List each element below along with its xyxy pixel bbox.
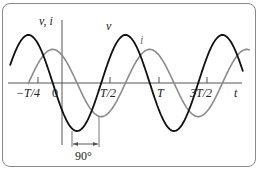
tick-label-minus-quarter: −T/4	[16, 86, 40, 100]
vi-phase-plot: v, i v i −T/4 0 T/2 T 3T/2 t 90°	[0, 0, 261, 172]
tick-label-T: T	[157, 86, 165, 100]
tick-label-half: T/2	[100, 86, 116, 100]
arrow-right-icon	[93, 142, 98, 146]
tick-label-zero: 0	[52, 86, 58, 100]
v-curve-label: v	[106, 19, 112, 33]
x-axis-label: t	[234, 86, 238, 100]
y-axis-label: v, i	[39, 14, 53, 28]
tick-label-three-half: 3T/2	[189, 86, 212, 100]
arrow-left-icon	[73, 142, 78, 146]
i-curve-label: i	[140, 33, 143, 47]
phase-label: 90°	[75, 149, 92, 163]
